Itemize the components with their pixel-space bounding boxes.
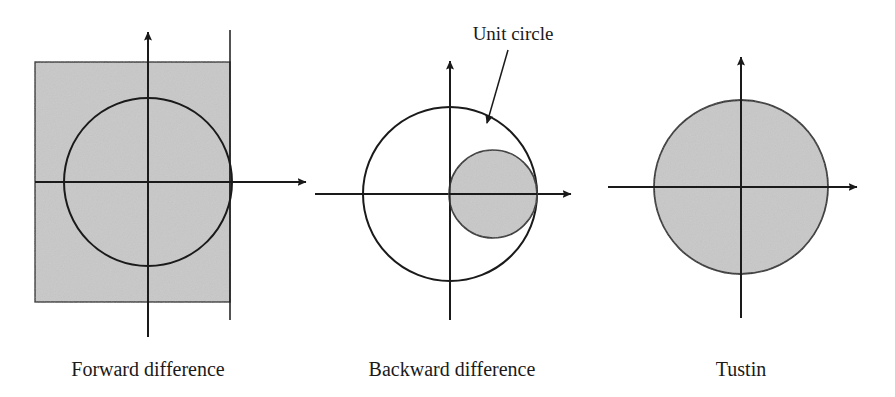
panel-caption: Tustin: [716, 358, 766, 380]
unit-circle-label: Unit circle: [473, 23, 554, 44]
panel-caption: Backward difference: [369, 358, 536, 380]
figure-canvas: Forward difference Backward difference U…: [0, 0, 895, 397]
stability-region-figure: Forward difference Backward difference U…: [0, 0, 895, 397]
panel-caption: Forward difference: [71, 358, 225, 380]
